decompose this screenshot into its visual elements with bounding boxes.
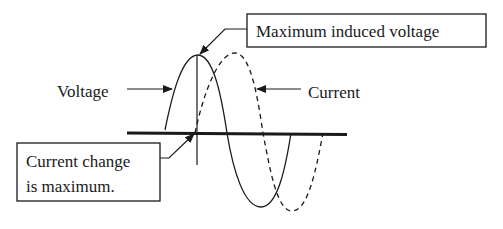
max-induced-voltage-leader — [200, 29, 247, 54]
max-induced-voltage-label: Maximum induced voltage — [256, 22, 439, 41]
current-change-label-line1: Current change — [26, 152, 130, 171]
voltage-label: Voltage — [57, 82, 109, 101]
current-change-label-line2: is maximum. — [26, 177, 115, 196]
voltage-current-diagram: Voltage Current Maximum induced voltage … — [0, 0, 503, 229]
voltage-curve — [165, 55, 291, 207]
time-axis — [127, 133, 347, 135]
current-change-leader — [160, 134, 194, 158]
current-label: Current — [308, 83, 360, 102]
